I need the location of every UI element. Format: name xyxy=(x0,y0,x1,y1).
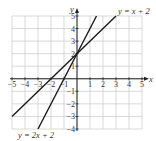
x-tick-label: −5 xyxy=(8,80,17,89)
x-axis-label: x xyxy=(148,74,153,84)
series-label: y = 2x + 2 xyxy=(17,130,55,140)
y-tick-label: −4 xyxy=(66,125,75,134)
x-tick-label: 3 xyxy=(114,80,118,89)
x-tick-label: 5 xyxy=(140,80,144,89)
y-tick-label: 4 xyxy=(71,25,75,34)
y-tick-label: −2 xyxy=(66,100,75,109)
x-tick-label: 2 xyxy=(101,80,105,89)
x-tick-label: 1 xyxy=(88,80,92,89)
y-tick-label: 3 xyxy=(71,37,75,46)
x-tick-label: −4 xyxy=(21,80,30,89)
y-axis-arrow-icon xyxy=(75,8,79,13)
x-tick-label: 4 xyxy=(127,80,131,89)
x-tick-label: −3 xyxy=(34,80,43,89)
y-tick-label: 5 xyxy=(71,12,75,21)
y-tick-label: −1 xyxy=(66,87,75,96)
y-tick-label: −3 xyxy=(66,112,75,121)
series-labels: y = x + 2y = 2x + 2 xyxy=(17,6,151,140)
linear-functions-chart: xy −5−4−3−2−112345−4−3−2−112345 y = x + … xyxy=(0,0,156,141)
axes: xy xyxy=(10,4,153,131)
tick-labels: −5−4−3−2−112345−4−3−2−112345 xyxy=(8,12,144,134)
series-label: y = x + 2 xyxy=(117,6,151,16)
